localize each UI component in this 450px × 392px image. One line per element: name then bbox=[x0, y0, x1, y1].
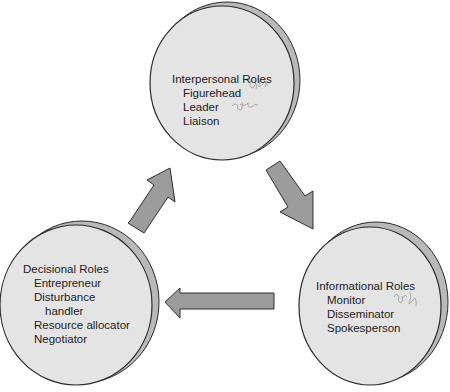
role-item-negotiator: Negotiator bbox=[23, 332, 130, 346]
role-item-resource-allocator: Resource allocator bbox=[23, 318, 130, 332]
node-title: Decisional Roles bbox=[23, 262, 130, 276]
arrow-decisional-to-interpersonal bbox=[128, 168, 175, 233]
role-item-leader: Leader bbox=[172, 100, 272, 114]
role-item-disturbance-handler: Disturbance bbox=[23, 290, 130, 304]
node-decisional-roles: Decisional Roles Entrepreneur Disturbanc… bbox=[23, 262, 130, 346]
node-title: Interpersonal Roles bbox=[172, 72, 272, 86]
managerial-roles-diagram: Interpersonal Roles Figurehead Leader Li… bbox=[0, 0, 450, 392]
role-item-entrepreneur: Entrepreneur bbox=[23, 276, 130, 290]
node-interpersonal-roles: Interpersonal Roles Figurehead Leader Li… bbox=[172, 72, 272, 128]
role-item-liaison: Liaison bbox=[172, 114, 272, 128]
role-item-disturbance-handler-cont: handler bbox=[23, 304, 130, 318]
role-item-monitor: Monitor bbox=[316, 293, 415, 307]
role-item-disseminator: Disseminator bbox=[316, 307, 415, 321]
node-title: Informational Roles bbox=[316, 279, 415, 293]
role-item-figurehead: Figurehead bbox=[172, 86, 272, 100]
node-informational-roles: Informational Roles Monitor Disseminator… bbox=[316, 279, 415, 335]
arrow-interpersonal-to-informational bbox=[266, 161, 313, 229]
role-item-spokesperson: Spokesperson bbox=[316, 321, 415, 335]
arrow-informational-to-decisional bbox=[165, 288, 274, 318]
